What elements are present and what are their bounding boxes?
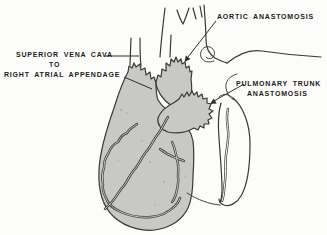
heart-line-drawing xyxy=(0,0,327,235)
aortic-branch-v-icon xyxy=(177,8,189,24)
aortic-arrow-head-icon xyxy=(185,55,191,62)
recipient-right-structure xyxy=(218,94,250,205)
label-superior-vena-cava: SUPERIOR VENA CAVA xyxy=(16,51,113,59)
heart-anastomosis-figure: AORTIC ANASTOMOSIS SUPERIOR VENA CAVA TO… xyxy=(0,0,327,235)
superior-vena-cava-vessel xyxy=(130,38,141,66)
label-pulmonary-trunk: PULMONARY TRUNK xyxy=(236,80,321,88)
pulmonary-arrow-head-icon xyxy=(210,98,217,104)
label-aortic-anastomosis: AORTIC ANASTOMOSIS xyxy=(217,13,314,21)
aortic-arrow-shaft xyxy=(188,21,216,57)
recipient-structure-left-edge xyxy=(218,103,222,202)
aortic-arch-line xyxy=(227,51,321,63)
label-right-atrial-appendage: RIGHT ATRIAL APPENDAGE xyxy=(4,71,120,79)
aortic-branch-stubs-icon xyxy=(193,6,202,19)
label-pulmonary-anastomosis: ANASTOMOSIS xyxy=(247,90,308,98)
label-svc-to: TO xyxy=(49,61,60,69)
